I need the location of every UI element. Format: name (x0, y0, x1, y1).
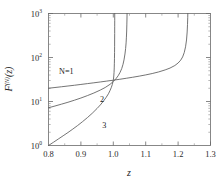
y-tick-label: 100 (31, 140, 43, 151)
chart-figure: 0.80.91.01.11.21.3 100101102103 N=123 z … (0, 0, 221, 184)
y-tick-label-exponent: 1 (39, 96, 42, 102)
x-tick-label: 1.1 (140, 149, 151, 159)
y-axis-title-superscript: (N) (3, 77, 11, 85)
plot-frame (49, 14, 211, 146)
x-tick-label: 1.2 (173, 149, 184, 159)
y-tick-label-exponent: 3 (39, 8, 42, 14)
x-axis-tick-labels: 0.80.91.01.11.21.3 (43, 149, 216, 159)
y-tick-label: 103 (31, 8, 43, 19)
y-axis-title-argument: (z) (3, 66, 15, 77)
y-tick-label-base: 10 (31, 97, 40, 107)
curve-label-2: 2 (100, 95, 104, 104)
y-tick-label-exponent: 0 (39, 140, 42, 146)
y-tick-label-base: 10 (31, 9, 40, 19)
y-tick-label-base: 10 (31, 141, 40, 151)
y-axis-title: F(N)(z) (3, 66, 15, 93)
curve-n1 (49, 14, 188, 89)
x-axis-ticks (65, 14, 211, 146)
log-line-chart: 0.80.91.01.11.21.3 100101102103 N=123 z … (0, 0, 221, 184)
data-curves (49, 14, 188, 146)
y-axis-title-text: F(N)(z) (3, 66, 15, 93)
curve-2 (49, 14, 128, 108)
curve-label-n1: N=1 (59, 67, 74, 76)
y-axis-tick-labels: 100101102103 (31, 8, 43, 151)
curve-label-3: 3 (102, 121, 106, 130)
y-tick-label-base: 10 (31, 53, 40, 63)
x-tick-label: 0.9 (76, 149, 87, 159)
curve-annotations: N=123 (59, 67, 106, 130)
x-tick-label: 1.0 (108, 149, 119, 159)
x-axis-title: z (126, 167, 131, 178)
y-tick-label: 101 (31, 96, 43, 107)
y-tick-label-exponent: 2 (39, 52, 42, 58)
x-tick-label: 0.8 (43, 149, 54, 159)
x-tick-label: 1.3 (205, 149, 216, 159)
y-tick-label: 102 (31, 52, 43, 63)
